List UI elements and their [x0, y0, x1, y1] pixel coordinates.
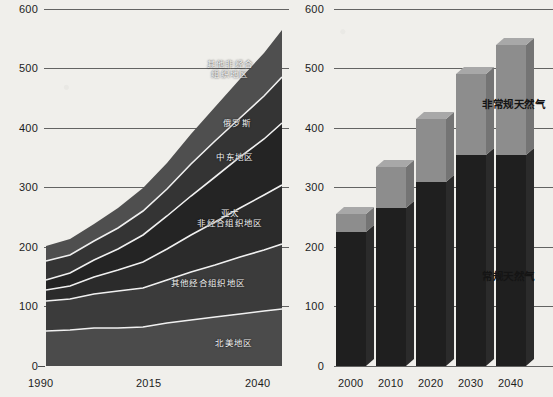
legend-label-unconventional: 非常规天然气	[482, 96, 546, 111]
stacked-bar-plot	[290, 0, 553, 397]
bar-2010-unconventional-side	[406, 160, 414, 208]
bar-2020-unconventional	[416, 119, 446, 182]
x-axis-tick-2040: 2040	[245, 377, 270, 389]
bar-2030-conventional	[456, 155, 486, 366]
bar-2030-unconventional-side	[486, 67, 494, 155]
bar-2010-conventional	[376, 208, 406, 366]
bar-2020-conventional-side	[446, 175, 454, 366]
bar-2040	[496, 38, 534, 366]
bar-2030-conventional-side	[486, 148, 494, 366]
bar-2030	[456, 67, 494, 366]
bar-2040-conventional-side	[526, 148, 534, 366]
bar-2020-conventional	[416, 182, 446, 366]
area-label-other-oecd: 其他经合组织地区	[153, 278, 263, 288]
bar-2000	[336, 207, 374, 366]
area-label-asia-pacific-line2: 非经合组织地区	[197, 218, 262, 228]
area-label-other-non-oecd: 其他非经合 组织地区	[196, 59, 264, 79]
x-axis-tick-2010: 2010	[378, 377, 403, 389]
bar-2010-conventional-side	[406, 201, 414, 366]
area-label-other-oecd-line1: 其他经合组织地区	[171, 278, 245, 288]
legend-swatch-unconventional	[460, 98, 473, 109]
x-axis-tick-2030: 2030	[458, 377, 483, 389]
x-axis-tick-2015: 2015	[136, 377, 161, 389]
bar-2020-unconventional-side	[446, 112, 454, 182]
x-axis-tick-1990: 1990	[28, 377, 53, 389]
area-label-russia-line1: 俄罗斯	[223, 118, 251, 128]
area-label-asia-pacific: 亚太 非经合组织地区	[191, 208, 269, 228]
left-chart-panel: 600 500 400 300 200 100 0 其他非经合 组织地区 俄罗斯…	[0, 0, 290, 397]
bar-2010-unconventional	[376, 167, 406, 208]
bar-2000-conventional	[336, 232, 366, 366]
legend-item-unconventional[interactable]: 非常规天然气	[460, 96, 546, 111]
area-label-other-non-oecd-line2: 组织地区	[211, 69, 248, 79]
area-label-north-america: 北美地区	[203, 338, 265, 348]
x-axis-tick-2040: 2040	[498, 377, 523, 389]
x-axis-tick-2020: 2020	[418, 377, 443, 389]
area-label-russia: 俄罗斯	[211, 118, 263, 128]
area-label-north-america-line1: 北美地区	[215, 338, 252, 348]
area-label-asia-pacific-line1: 亚太	[221, 208, 240, 218]
bar-2000-unconventional	[336, 214, 366, 232]
bar-2020	[416, 112, 454, 366]
bar-2000-conventional-side	[366, 225, 374, 366]
bar-2010	[376, 160, 414, 366]
area-label-middle-east: 中东地区	[206, 152, 264, 162]
area-label-other-non-oecd-line1: 其他非经合	[207, 59, 254, 69]
bar-2030-unconventional	[456, 74, 486, 155]
legend-label-conventional: 常规天然气	[482, 268, 535, 283]
bar-2040-conventional	[496, 155, 526, 366]
area-label-middle-east-line1: 中东地区	[216, 152, 253, 162]
right-chart-panel: 600 500 400 300 200 100 0	[290, 0, 553, 397]
x-axis-tick-2000: 2000	[338, 377, 363, 389]
legend-item-conventional[interactable]: 常规天然气	[460, 268, 535, 283]
legend-swatch-conventional	[460, 270, 473, 281]
